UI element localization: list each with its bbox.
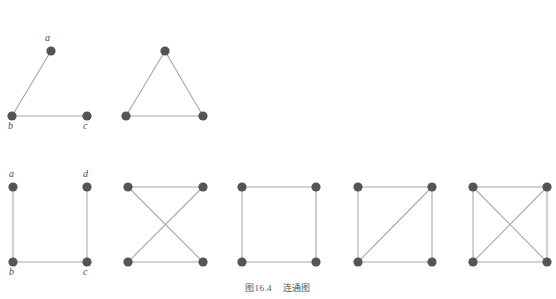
graph-vertex <box>198 257 207 266</box>
vertex-label-c: c <box>83 121 87 131</box>
graph-vertex <box>468 257 477 266</box>
graph-vertex <box>237 182 246 191</box>
graph-layer <box>7 46 551 266</box>
graph-vertex <box>427 257 436 266</box>
graph-vertex <box>468 182 477 191</box>
graph-vertex <box>8 182 17 191</box>
figure-caption: 图16.4 连通图 <box>0 281 556 294</box>
graph-vertex <box>46 46 55 55</box>
graph-vertex <box>121 111 130 120</box>
graph-edge <box>358 187 432 262</box>
graph-vertex <box>198 111 207 120</box>
graph-vertex <box>542 257 551 266</box>
vertex-label-d: d <box>83 169 88 179</box>
vertex-label-a: a <box>9 169 14 179</box>
vertex-label-b: b <box>8 121 13 131</box>
graph-vertex <box>311 257 320 266</box>
u-shaped-path-graph-a-b-c-d <box>8 182 91 266</box>
graph-vertex <box>160 46 169 55</box>
graph-vertex <box>237 257 246 266</box>
triangle-graph <box>121 46 207 120</box>
graph-edge <box>165 51 203 116</box>
vertex-label-a: a <box>45 33 50 43</box>
complete-graph-k4 <box>468 182 551 266</box>
graph-vertex <box>123 257 132 266</box>
square-with-one-diagonal-graph <box>353 182 436 266</box>
graph-edge <box>126 51 165 116</box>
graph-vertex <box>353 182 362 191</box>
figure-canvas <box>0 0 556 299</box>
four-cycle-with-crossed-diagonals-no-sides <box>123 182 207 266</box>
graph-vertex <box>82 182 91 191</box>
graph-vertex <box>427 182 436 191</box>
graph-edge <box>12 51 51 116</box>
graph-vertex <box>123 182 132 191</box>
vertex-label-c: c <box>83 267 87 277</box>
path-graph-a-b-c <box>7 46 91 120</box>
graph-vertex <box>311 182 320 191</box>
graph-vertex <box>542 182 551 191</box>
graph-vertex <box>353 257 362 266</box>
vertex-label-b: b <box>9 267 14 277</box>
square-four-cycle-graph <box>237 182 320 266</box>
graph-vertex <box>198 182 207 191</box>
